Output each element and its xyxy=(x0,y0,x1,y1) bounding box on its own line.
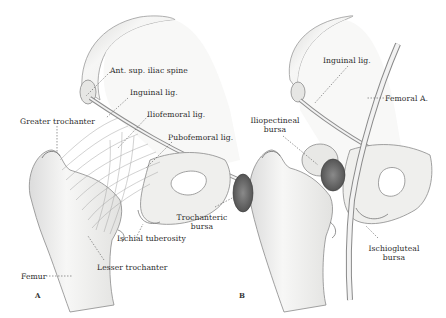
label-pubofemoral-lig: Pubofemoral lig. xyxy=(168,133,233,142)
label-ant-sup-iliac-spine: Ant. sup. iliac spine xyxy=(110,66,188,75)
label-greater-trochanter: Greater trochanter xyxy=(20,117,95,126)
panel-letter-a: A xyxy=(35,291,40,300)
label-ischiogluteal-line1: Ischiogluteal xyxy=(362,244,426,253)
label-ischiogluteal-line2: bursa xyxy=(362,253,426,262)
label-inguinal-lig-b: Inguinal lig. xyxy=(323,56,371,65)
label-iliopectineal-line2: bursa xyxy=(245,125,305,134)
label-iliopectineal-line1: Iliopectineal xyxy=(245,116,305,125)
label-inguinal-lig-a: Inguinal lig. xyxy=(130,88,178,97)
label-trochanteric-line2: bursa xyxy=(170,222,234,231)
hip-anatomy-figure: Ant. sup. iliac spine Inguinal lig. Ilio… xyxy=(0,0,446,318)
label-trochanteric-line1: Trochanteric xyxy=(170,213,234,222)
label-trochanteric-bursa: Trochanteric bursa xyxy=(170,213,234,231)
label-femoral-a: Femoral A. xyxy=(385,94,428,103)
label-iliofemoral-lig: Iliofemoral lig. xyxy=(147,110,205,119)
illustration-svg xyxy=(0,0,446,318)
label-ischial-tuberosity: Ischial tuberosity xyxy=(117,234,186,243)
label-lesser-trochanter: Lesser trochanter xyxy=(97,263,168,272)
panel-letter-b: B xyxy=(239,291,245,300)
label-iliopectineal-bursa: Iliopectineal bursa xyxy=(245,116,305,134)
label-femur: Femur xyxy=(21,272,47,281)
label-ischiogluteal-bursa: Ischiogluteal bursa xyxy=(362,244,426,262)
